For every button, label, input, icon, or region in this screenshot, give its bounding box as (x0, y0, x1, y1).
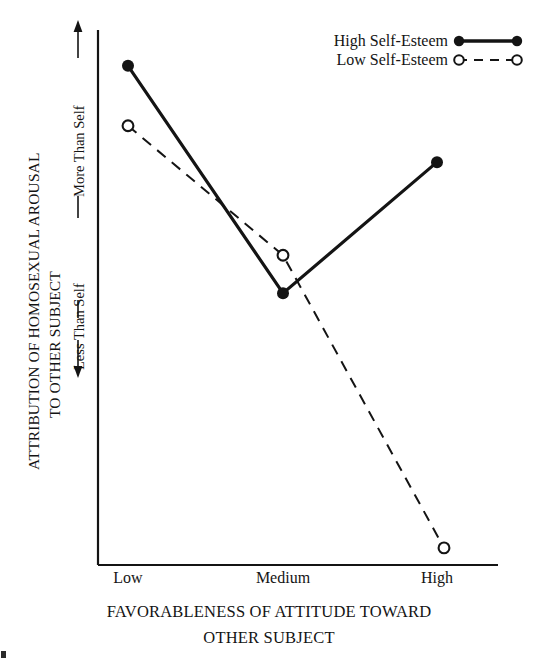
x-axis-label-line-2: OTHER SUBJECT (203, 630, 334, 647)
x-tick-label-low: Low (113, 570, 142, 586)
x-tick-label-high: High (421, 570, 453, 586)
legend-label-high-self-esteem: High Self-Esteem (334, 33, 448, 49)
figure-chart: ATTRIBUTION OF HOMOSEXUAL AROUSAL TO OTH… (0, 0, 538, 660)
x-axis-label-line-1: FAVORABLENESS OF ATTITUDE TOWARD (107, 604, 432, 621)
legend-sample-high-self-esteem (454, 36, 522, 46)
data-point-marker (278, 250, 289, 261)
y-axis-direction-high-label: More Than Self (72, 105, 87, 197)
legend-label-low-self-esteem: Low Self-Esteem (336, 52, 448, 68)
series-layer (122, 60, 449, 553)
data-point-marker (277, 287, 289, 299)
y-axis-direction-low-label: Less Than Self (72, 283, 87, 370)
series-high-self-esteem (122, 60, 443, 299)
y-axis-label-line-2: TO OTHER SUBJECT (47, 271, 63, 418)
y-axis-label-line-1: ATTRIBUTION OF HOMOSEXUAL AROUSAL (26, 153, 42, 470)
x-tick-label-medium: Medium (256, 570, 310, 586)
data-point-marker (431, 156, 443, 168)
series-line (128, 126, 444, 548)
data-point-marker (122, 60, 134, 72)
data-point-marker (439, 542, 450, 553)
scan-artifact-speck (1, 651, 6, 658)
legend-sample-low-self-esteem (454, 55, 522, 65)
series-low-self-esteem (123, 120, 450, 553)
data-point-marker (123, 120, 134, 131)
